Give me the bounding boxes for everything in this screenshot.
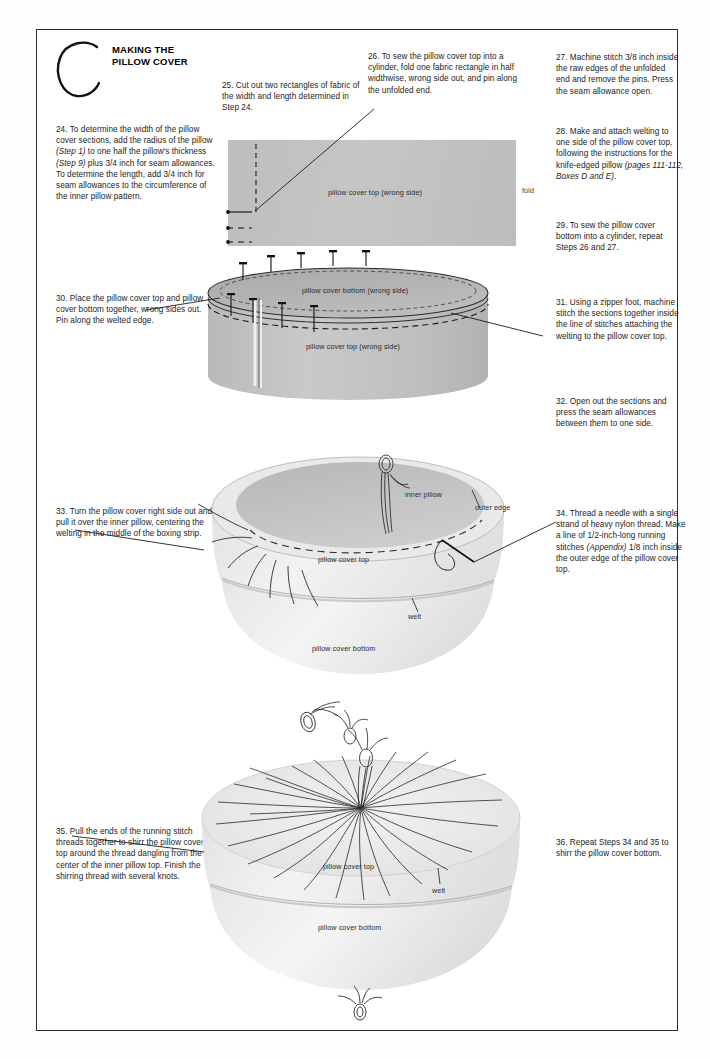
figure4-bottom-label: pillow cover bottom bbox=[318, 923, 381, 932]
figure3-welt-label: welt bbox=[408, 612, 421, 621]
figure1-fold-label: fold bbox=[522, 186, 534, 195]
figure3-inner-pillow-label: inner pillow bbox=[405, 490, 442, 499]
step-28-text: 28. Make and attach welting to one side … bbox=[556, 126, 684, 182]
figure4-top-label: pillow cover top bbox=[323, 862, 374, 871]
step-34-text: 34. Thread a needle with a single strand… bbox=[556, 508, 688, 575]
step-25-text: 25. Cut out two rectangles of fabric of … bbox=[222, 80, 368, 114]
section-letter-c bbox=[56, 40, 102, 98]
step-35-text: 35. Pull the ends of the running stitch … bbox=[56, 826, 206, 882]
figure-shirred-pillow: pillow cover top welt pillow cover botto… bbox=[190, 690, 530, 1020]
step-24-text: 24. To determine the width of the pillow… bbox=[56, 124, 216, 202]
page-canvas: MAKING THE PILLOW COVER 24. To determine… bbox=[0, 0, 710, 1059]
figure4-welt-label: welt bbox=[432, 886, 445, 895]
figure3-bottom-label: pillow cover bottom bbox=[312, 644, 375, 653]
page-title: MAKING THE PILLOW COVER bbox=[112, 44, 252, 68]
step-36-text: 36. Repeat Steps 34 and 35 to shirr the … bbox=[556, 837, 686, 859]
step-31-text: 31. Using a zipper foot, machine stitch … bbox=[556, 297, 686, 342]
figure1-fabric-label: pillow cover top (wrong side) bbox=[328, 188, 422, 197]
page-title-line2: PILLOW COVER bbox=[112, 56, 252, 68]
figure-folded-rectangle: pillow cover top (wrong side) fold bbox=[222, 140, 522, 246]
figure2-bottom-label: pillow cover bottom (wrong side) bbox=[302, 286, 408, 295]
step-29-text: 29. To sew the pillow cover bottom into … bbox=[556, 220, 680, 254]
figure3-top-label: pillow cover top bbox=[318, 555, 369, 564]
figure-pinned-cylinder: pillow cover bottom (wrong side) pillow … bbox=[198, 258, 528, 398]
figure2-top-label: pillow cover top (wrong side) bbox=[306, 342, 400, 351]
figure3-outer-edge-label: outer edge bbox=[475, 503, 510, 512]
figure-pillow-with-stitches: inner pillow outer edge pillow cover top… bbox=[190, 412, 530, 682]
step-26-text: 26. To sew the pillow cover top into a c… bbox=[368, 51, 528, 96]
step-30-text: 30. Place the pillow cover top and pillo… bbox=[56, 293, 214, 327]
step-32-text: 32. Open out the sections and press the … bbox=[556, 396, 687, 430]
page-title-line1: MAKING THE bbox=[112, 44, 252, 56]
step-27-text: 27. Machine stitch 3/8 inch inside the r… bbox=[556, 52, 681, 97]
